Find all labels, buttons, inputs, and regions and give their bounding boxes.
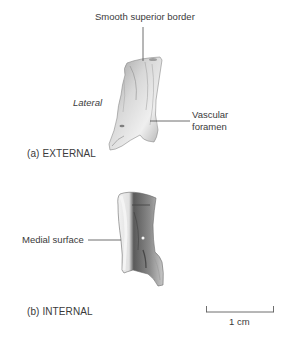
label-medial-surface: Medial surface [22,234,84,245]
scale-bar-label: 1 cm [229,316,250,327]
caption-external: (a) EXTERNAL [27,148,96,159]
bone-external-view [109,57,162,150]
label-vascular: Vascular [192,109,228,120]
illustration-canvas [0,0,297,341]
label-lateral: Lateral [73,97,102,108]
label-foramen: foramen [192,121,227,132]
bone-internal-view [118,192,164,286]
scale-bar [207,306,274,312]
label-smooth-superior-border: Smooth superior border [95,11,195,22]
caption-internal: (b) INTERNAL [27,306,93,317]
